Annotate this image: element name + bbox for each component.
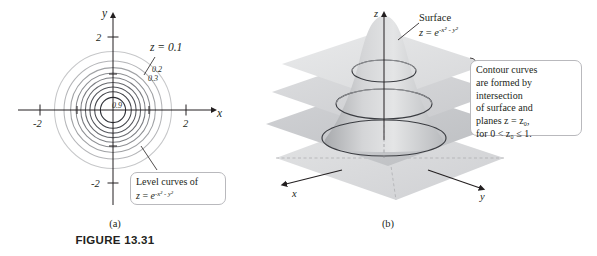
panel-a-y-axis-label: y [101, 7, 108, 20]
surface-eq-lhs: z [419, 27, 423, 38]
panel-a-sublabel: (a) [0, 218, 230, 229]
contour-label-z01: z = 0.1 [149, 41, 182, 53]
callout-a-line1: Level curves of [136, 176, 220, 189]
x-tick-label-neg2: -2 [33, 118, 42, 129]
x-tick-label-pos2: 2 [183, 118, 189, 129]
surface-eq-equals: = [426, 27, 432, 38]
y-tick-label-pos2: 2 [96, 32, 102, 43]
panel-b-sublabel: (b) [288, 218, 488, 229]
panel-b-callout: Contour curves are formed by intersectio… [470, 60, 582, 136]
panel-a-callout: Level curves of z = e-x² - y² [130, 172, 226, 205]
y-tick-label-neg2: -2 [91, 178, 100, 189]
panel-a-x-axis-label: x [216, 107, 223, 119]
callout-b-line2: are formed by [476, 77, 576, 90]
surface-equation: z = e-x² - y² [419, 26, 458, 40]
callout-b-line4: of surface and [476, 102, 576, 115]
leader-line-surface [398, 23, 419, 40]
panel-b-z-axis-label: z [373, 8, 378, 19]
contour-label-09: 0.9 [112, 101, 122, 110]
panel-a-level-curves: x y -2 2 2 -2 z = 0.1 0.2 0.3 0.9 Level … [0, 0, 290, 256]
callout-a-exp: -x² - y² [155, 190, 173, 197]
panel-b-x-axis-label: x [291, 188, 297, 199]
panel-b-y-axis-label: y [479, 191, 485, 202]
callout-b-line5: planes z = z₀, [476, 115, 576, 128]
contour-label-03: 0.3 [148, 74, 158, 83]
surface-eq-exp: -x² - y² [439, 26, 458, 34]
callout-a-line2: z = e-x² - y² [136, 190, 220, 203]
callout-a-lhs: z [136, 190, 140, 201]
leader-line-callout-a [141, 146, 157, 170]
contour-label-02: 0.2 [152, 65, 162, 74]
figure-caption: FIGURE 13.31 [0, 234, 230, 246]
surface-label: Surface [419, 11, 458, 25]
surface-label-group: Surface z = e-x² - y² [419, 11, 458, 39]
callout-b-line1: Contour curves [476, 64, 576, 77]
callout-b-line3: intersection [476, 90, 576, 103]
figure-13-31: x y -2 2 2 -2 z = 0.1 0.2 0.3 0.9 Level … [0, 0, 597, 256]
callout-a-eq: = [142, 190, 148, 201]
callout-b-line6: for 0 < z₀ ≤ 1. [476, 128, 576, 141]
panel-b-surface: z x y Surface z = e-x² - y² Contour cur [288, 0, 597, 256]
